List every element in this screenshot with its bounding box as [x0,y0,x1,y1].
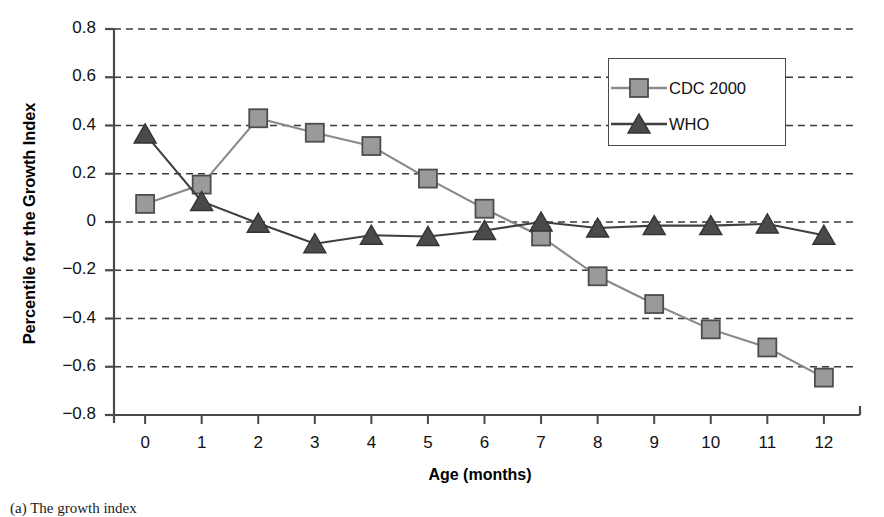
y-tick-label: 0.6 [26,66,96,86]
y-tick-label: −0.8 [26,404,96,424]
x-tick-label: 5 [408,433,448,453]
legend-label-cdc-2000: CDC 2000 [669,79,746,98]
x-tick-label: 10 [691,433,731,453]
legend-label-who: WHO [669,115,709,134]
x-tick-label: 7 [521,433,561,453]
y-tick-label: 0 [26,211,96,231]
x-axis-title: Age (months) [100,466,860,484]
y-tick-marks-group [105,29,114,415]
x-tick-marks-group [145,415,824,424]
legend-triangle-marker-icon [609,111,669,137]
legend-square-marker-icon [609,75,669,101]
x-tick-label: 12 [804,433,844,453]
x-tick-label: 1 [182,433,222,453]
y-tick-label: 0.8 [26,18,96,38]
y-tick-label: −0.6 [26,356,96,376]
x-tick-label: 8 [578,433,618,453]
y-tick-label: −0.4 [26,308,96,328]
x-tick-label: 6 [465,433,505,453]
x-tick-label: 0 [125,433,165,453]
legend-entry-cdc-2000: CDC 2000 [609,73,787,103]
figure-caption: (a) The growth index [10,500,137,517]
x-tick-label: 9 [634,433,674,453]
x-tick-label: 2 [238,433,278,453]
legend-entry-who: WHO [609,109,787,139]
y-tick-label: 0.2 [26,163,96,183]
x-tick-label: 4 [351,433,391,453]
x-tick-label: 11 [747,433,787,453]
x-tick-label: 3 [295,433,335,453]
y-tick-label: 0.4 [26,115,96,135]
y-tick-label: −0.2 [26,259,96,279]
series-cdc-2000 [136,109,833,386]
chart-legend: CDC 2000 WHO [608,58,786,146]
